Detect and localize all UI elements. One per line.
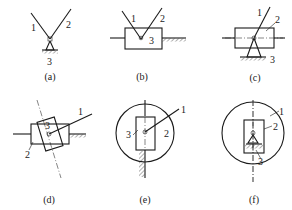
label-3: 3 [47, 56, 52, 67]
panel-b: 1 2 3 (b) [110, 8, 186, 83]
label-3: 3 [258, 156, 263, 167]
label-3: 3 [270, 54, 275, 65]
caption-c: (c) [249, 72, 260, 84]
label-2: 2 [66, 19, 71, 30]
caption-a: (a) [44, 71, 55, 83]
slider-block [125, 28, 162, 49]
label-2: 2 [273, 121, 278, 132]
label-2: 2 [25, 149, 30, 160]
label-1: 1 [257, 7, 262, 18]
label-1: 1 [78, 106, 83, 117]
label-3: 3 [149, 35, 154, 46]
label-3: 3 [45, 120, 50, 131]
label-1: 1 [181, 104, 186, 115]
ground-hatch [240, 58, 266, 61]
label-2: 2 [160, 13, 165, 24]
label-1: 1 [31, 22, 36, 33]
ground-hatch [42, 51, 58, 54]
panel-d: 1 2 3 (d) [13, 100, 92, 206]
panel-a: 1 2 3 (a) [31, 9, 71, 83]
caption-f: (f) [249, 194, 259, 206]
label-1: 1 [131, 13, 136, 24]
caption-b: (b) [136, 71, 148, 83]
label-2: 2 [275, 14, 280, 25]
panel-f: 1 2 3 (f) [222, 100, 284, 206]
ground-hatch [139, 151, 145, 177]
kinematic-diagram: 1 2 3 (a) 1 2 3 (b) 1 2 3 (c) [0, 0, 292, 210]
label-2: 2 [164, 128, 169, 139]
ground-hatch [245, 145, 263, 149]
ground-hatch [162, 39, 186, 42]
label-1: 1 [279, 106, 284, 117]
caption-d: (d) [43, 194, 55, 206]
leader-2 [264, 126, 272, 129]
panel-e: 1 2 3 (e) [116, 100, 186, 206]
slider-block [136, 117, 155, 150]
caption-e: (e) [139, 194, 150, 206]
center-line [37, 100, 61, 178]
support-triangle [46, 41, 54, 50]
ground-hatch [69, 135, 86, 138]
label-3: 3 [126, 129, 131, 140]
panel-c: 1 2 3 (c) [222, 7, 285, 84]
